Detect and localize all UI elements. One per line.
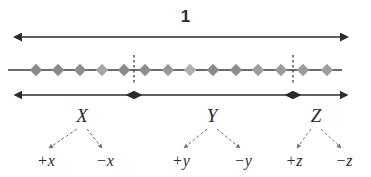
total-length-label: 1 <box>0 7 371 27</box>
segment-z-label: Z <box>311 105 322 127</box>
marker-diamond-1 <box>30 64 42 76</box>
segment-x-label: X <box>76 105 88 127</box>
segment-y-leaf-minus: −y <box>234 152 252 170</box>
segment-z-leaf-plus: +z <box>285 152 302 170</box>
marker-diamond-14 <box>321 64 333 76</box>
marker-diamond-9 <box>207 64 219 76</box>
marker-diamond-3 <box>74 64 86 76</box>
marker-diamond-6 <box>139 64 151 76</box>
connector-group <box>49 129 341 148</box>
segment-y-connector-plus <box>184 129 207 148</box>
segment-z-leaf-minus: −z <box>335 152 352 170</box>
marker-diamond-12 <box>275 64 287 76</box>
marker-diamond-8 <box>184 64 196 76</box>
marker-diamond-13 <box>297 64 309 76</box>
segment-x-connector-plus <box>49 129 77 148</box>
segment-z-connector-minus <box>321 129 341 148</box>
marker-diamond-2 <box>52 64 64 76</box>
segment-z-connector-plus <box>297 129 311 148</box>
marker-diamond-11 <box>252 64 264 76</box>
marker-diamond-5 <box>118 64 130 76</box>
segment-x-leaf-minus: −x <box>96 152 114 170</box>
marker-diamond-4 <box>96 64 108 76</box>
segment-y-connector-minus <box>217 129 240 148</box>
segment-y-leaf-plus: +y <box>172 152 190 170</box>
figure-canvas: 1 X+x−xY+y−yZ+z−z <box>0 0 371 177</box>
segment-x-leaf-plus: +x <box>37 152 55 170</box>
segment-x-connector-minus <box>87 129 102 148</box>
marker-diamond-10 <box>230 64 242 76</box>
segment-y-label: Y <box>207 105 218 127</box>
marker-diamond-7 <box>162 64 174 76</box>
